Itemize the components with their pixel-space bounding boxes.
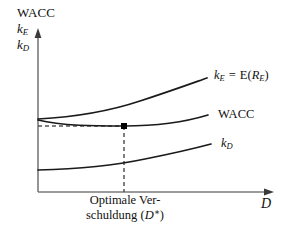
curve-label-ke-subscript: E — [220, 73, 225, 83]
curve-label-close-paren: ) — [264, 68, 268, 82]
optimum-caption-line-2: schuldung (D∗) — [0, 209, 250, 223]
optimum-caption-suffix: ) — [160, 208, 164, 222]
y-axis-label-kd-subscript: D — [23, 43, 29, 53]
optimum-caption: Optimale Ver- schuldung (D∗) — [0, 194, 250, 223]
y-axis-arrowhead — [35, 28, 42, 38]
curve-label-return-subscript: E — [259, 73, 264, 83]
guide-lines-group — [38, 126, 124, 192]
cost-of-equity-curve — [38, 78, 207, 119]
curve-label-kd-symbol: k — [221, 136, 227, 150]
curve-label-ke-equals: = — [229, 68, 236, 82]
wacc-leverage-diagram: WACC kE kD D kE=E(RE) WACC kD Optimale V… — [0, 0, 293, 239]
y-axis-label-cost-of-equity: kE — [17, 22, 28, 36]
optimum-caption-prefix: schuldung ( — [86, 208, 145, 222]
optimum-point-marker — [121, 123, 127, 129]
curve-label-wacc: WACC — [218, 108, 255, 122]
curve-label-kd-subscript: D — [227, 141, 233, 151]
y-axis-label-kd-symbol: k — [17, 37, 23, 52]
curve-label-ke-symbol: k — [214, 68, 220, 82]
y-axis-label-ke-symbol: k — [17, 21, 23, 36]
optimum-caption-line-1: Optimale Ver- — [0, 194, 250, 208]
y-axis-label-wacc: WACC — [17, 6, 55, 20]
optimum-caption-variable: D — [145, 208, 154, 222]
curve-label-cost-of-debt: kD — [221, 137, 233, 151]
x-axis-arrowhead — [264, 189, 274, 196]
optimum-caption-star: ∗ — [154, 207, 160, 217]
x-axis-label-debt: D — [261, 196, 271, 211]
y-axis-label-ke-subscript: E — [23, 27, 28, 37]
y-axis-label-cost-of-debt: kD — [17, 38, 29, 52]
curve-label-cost-of-equity: kE=E(RE) — [214, 69, 269, 83]
